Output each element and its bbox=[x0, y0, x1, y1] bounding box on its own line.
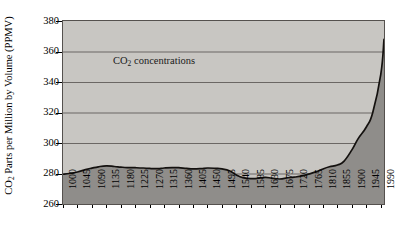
co2-concentration-chart: CO2 Parts per Million by Volume (PPMV) 3… bbox=[0, 0, 401, 243]
x-tick-label: 1045 bbox=[82, 169, 92, 209]
x-tick-label: 1090 bbox=[97, 169, 107, 209]
x-tick-mark bbox=[63, 205, 64, 208]
x-tick-mark bbox=[135, 205, 136, 208]
x-tick-mark bbox=[207, 205, 208, 208]
x-tick-mark bbox=[251, 205, 252, 208]
x-tick-mark bbox=[236, 205, 237, 208]
x-tick-label: 1135 bbox=[111, 169, 121, 209]
x-tick-label: 1855 bbox=[342, 169, 352, 209]
x-tick-mark bbox=[164, 205, 165, 208]
x-tick-label: 1495 bbox=[227, 169, 237, 209]
x-tick-mark bbox=[381, 205, 382, 208]
x-tick-mark bbox=[77, 205, 78, 208]
x-tick-mark bbox=[280, 205, 281, 208]
x-tick-mark bbox=[150, 205, 151, 208]
x-tick-label: 1945 bbox=[371, 169, 381, 209]
x-tick-label: 1000 bbox=[68, 169, 78, 209]
x-tick-mark bbox=[294, 205, 295, 208]
x-tick-label: 1450 bbox=[212, 169, 222, 209]
x-tick-mark bbox=[366, 205, 367, 208]
x-tick-label: 1720 bbox=[299, 169, 309, 209]
x-tick-label: 1225 bbox=[140, 169, 150, 209]
x-tick-label: 1990 bbox=[386, 169, 396, 209]
x-tick-mark bbox=[265, 205, 266, 208]
x-tick-mark bbox=[352, 205, 353, 208]
series-annotation-label: CO2 concentrations bbox=[113, 54, 195, 68]
y-axis-title: CO2 Parts per Million by Volume (PPMV) bbox=[2, 3, 16, 208]
x-tick-label: 1630 bbox=[270, 169, 280, 209]
x-tick-label: 1360 bbox=[184, 169, 194, 209]
x-tick-mark bbox=[106, 205, 107, 208]
x-tick-mark bbox=[193, 205, 194, 208]
x-tick-mark bbox=[92, 205, 93, 208]
x-tick-mark bbox=[337, 205, 338, 208]
x-tick-label: 1900 bbox=[357, 169, 367, 209]
x-tick-label: 1180 bbox=[126, 169, 136, 209]
x-tick-label: 1405 bbox=[198, 169, 208, 209]
x-tick-mark bbox=[309, 205, 310, 208]
x-tick-label: 1810 bbox=[328, 169, 338, 209]
x-tick-label: 1765 bbox=[314, 169, 324, 209]
x-tick-label: 1540 bbox=[241, 169, 251, 209]
x-tick-mark bbox=[222, 205, 223, 208]
x-tick-label: 1675 bbox=[285, 169, 295, 209]
co2-line bbox=[63, 39, 384, 179]
x-tick-mark bbox=[179, 205, 180, 208]
x-tick-label: 1270 bbox=[155, 169, 165, 209]
x-tick-label: 1315 bbox=[169, 169, 179, 209]
x-tick-label: 1585 bbox=[256, 169, 266, 209]
gridlines bbox=[63, 52, 384, 174]
x-tick-mark bbox=[121, 205, 122, 208]
x-tick-mark bbox=[323, 205, 324, 208]
